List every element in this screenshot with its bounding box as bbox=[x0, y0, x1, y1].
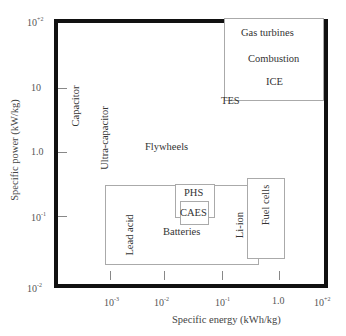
x-tick-0.001 bbox=[110, 271, 111, 280]
label-capacitor: Capacitor bbox=[71, 86, 82, 127]
x-tick-1 bbox=[279, 271, 280, 280]
x-tick-label-100: 10+2 bbox=[314, 296, 330, 308]
x-axis-title: Specific energy (kWh/kg) bbox=[172, 315, 281, 326]
y-tick-label-0.01: 10-2 bbox=[27, 282, 42, 294]
y-tick-label-100: 10+2 bbox=[27, 16, 43, 28]
label-flywheels: Flywheels bbox=[145, 142, 188, 153]
label-caes: CAES bbox=[180, 208, 207, 219]
label-lead-acid: Lead acid bbox=[125, 214, 136, 255]
x-tick-0.01 bbox=[164, 271, 165, 280]
tes-line bbox=[244, 100, 324, 101]
label-ultra-capacitor: Ultra-capacitor bbox=[100, 106, 111, 170]
x-tick-label-0.1: 10-1 bbox=[215, 296, 230, 308]
label-ice: ICE bbox=[266, 77, 283, 88]
y-tick-10 bbox=[58, 88, 67, 89]
label-li-ion: Li-ion bbox=[235, 212, 246, 238]
y-tick-label-1: 1.0 bbox=[31, 147, 44, 157]
y-axis-title: Specific power (kW/kg) bbox=[10, 99, 21, 200]
x-tick-0.1 bbox=[222, 271, 223, 280]
y-tick-1 bbox=[58, 152, 67, 153]
label-phs: PHS bbox=[184, 188, 203, 199]
label-batteries: Batteries bbox=[163, 227, 200, 238]
x-tick-label-0.01: 10-2 bbox=[154, 296, 169, 308]
label-gas-turbines: Gas turbines bbox=[241, 28, 294, 39]
y-tick-label-0.1: 10-1 bbox=[31, 211, 46, 223]
y-tick-0.1 bbox=[58, 216, 67, 217]
x-tick-label-1: 1.0 bbox=[272, 296, 285, 306]
label-tes: TES bbox=[221, 96, 240, 107]
label-combustion: Combustion bbox=[248, 54, 299, 65]
x-tick-label-0.001: 10-3 bbox=[104, 296, 119, 308]
y-tick-label-10: 10 bbox=[31, 83, 41, 93]
label-fuel-cells: Fuel cells bbox=[261, 185, 272, 226]
